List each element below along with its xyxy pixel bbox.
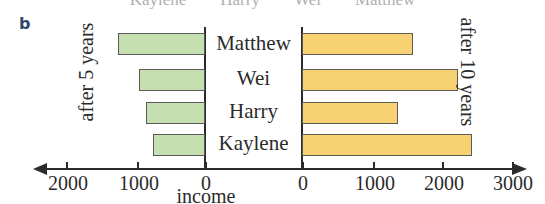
tick-mark <box>373 162 375 170</box>
category-label-matthew: Matthew <box>205 33 302 54</box>
tick-mark <box>66 162 68 170</box>
x-tick-label: 1000 <box>119 173 159 193</box>
category-label-wei: Wei <box>205 68 302 89</box>
x-tick-label: 1000 <box>355 173 395 193</box>
right-series-label: after 10 years <box>458 0 478 162</box>
x-tick-label: 2000 <box>48 173 88 193</box>
bar-right-kaylene <box>302 134 472 156</box>
bar-left-harry <box>146 102 206 124</box>
x-tick-label: 2000 <box>424 173 464 193</box>
bar-right-harry <box>302 102 398 124</box>
tick-mark <box>512 162 514 170</box>
x-tick-label: 3000 <box>493 173 533 193</box>
bar-right-wei <box>302 69 458 91</box>
bar-right-matthew <box>302 33 413 55</box>
tick-mark <box>137 162 139 170</box>
bar-left-wei <box>139 69 206 91</box>
bar-left-matthew <box>118 33 206 55</box>
category-label-harry: Harry <box>205 101 302 122</box>
x-tick-label: 0 <box>298 173 308 193</box>
category-label-kaylene: Kaylene <box>205 133 302 154</box>
bidirectional-bar-chart: 2000 1000 0 0 1000 2000 3000 Matthew Wei… <box>0 0 545 204</box>
x-axis-left-arrow-icon <box>33 163 47 175</box>
tick-mark <box>442 162 444 170</box>
bar-left-kaylene <box>153 134 206 156</box>
tick-mark <box>302 162 304 170</box>
x-axis-title: income <box>177 186 236 204</box>
tick-mark <box>205 162 207 170</box>
left-series-label: after 5 years <box>76 0 96 162</box>
